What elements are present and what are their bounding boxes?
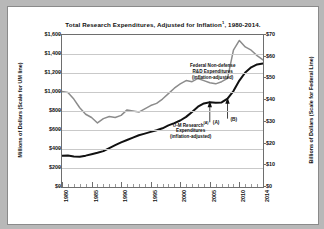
x-tick-minor bbox=[109, 184, 110, 187]
x-tick-minor bbox=[163, 184, 164, 187]
gridline bbox=[62, 92, 263, 93]
x-tick-minor bbox=[257, 184, 258, 187]
x-tick-minor bbox=[157, 184, 158, 187]
x-tick-major bbox=[121, 182, 122, 187]
x-tick-minor bbox=[228, 184, 229, 187]
x-tick-minor bbox=[204, 184, 205, 187]
x-tick-major bbox=[180, 182, 181, 187]
chart-title-years: , 1980-2014. bbox=[224, 21, 260, 28]
x-tick-minor bbox=[198, 184, 199, 187]
x-tick-minor bbox=[216, 184, 217, 187]
x-tick-minor bbox=[103, 184, 104, 187]
x-tick-minor bbox=[186, 184, 187, 187]
y-axis-right-tick-label: $10 bbox=[266, 161, 275, 167]
x-tick-minor bbox=[233, 184, 234, 187]
y-axis-right-tick-label: $60 bbox=[266, 53, 275, 59]
x-axis-tick-label: 1990 bbox=[122, 190, 128, 202]
x-tick-minor bbox=[74, 184, 75, 187]
gridline bbox=[62, 54, 263, 55]
x-tick-major bbox=[151, 182, 152, 187]
x-axis-tick-label: 2000 bbox=[181, 190, 187, 202]
x-tick-minor bbox=[133, 184, 134, 187]
x-tick-minor bbox=[115, 184, 116, 187]
y-axis-right-tick-label: $70 bbox=[266, 31, 275, 37]
x-tick-minor bbox=[68, 184, 69, 187]
x-tick-major bbox=[210, 182, 211, 187]
x-tick-major bbox=[62, 182, 63, 187]
y-axis-right-tick-label: $30 bbox=[266, 118, 275, 124]
y-axis-right-tick-label: $0 bbox=[266, 183, 272, 189]
y-axis-right-tick-label: $40 bbox=[266, 96, 275, 102]
x-axis-tick-label: 1985 bbox=[93, 190, 99, 202]
marker-label-b: (B) bbox=[231, 117, 238, 122]
x-axis-tick-label: 1995 bbox=[152, 190, 158, 202]
chart-title-text: Total Research Expenditures, Adjusted fo… bbox=[65, 21, 222, 28]
x-axis-tick-label: 2005 bbox=[211, 190, 217, 202]
gridline bbox=[62, 168, 263, 169]
y-axis-right-tick-label: $50 bbox=[266, 74, 275, 80]
annotation-um-line3: (inflation-adjusted) bbox=[170, 134, 211, 140]
x-tick-minor bbox=[168, 184, 169, 187]
chart-figure: Total Research Expenditures, Adjusted fo… bbox=[7, 6, 319, 225]
gridline bbox=[62, 149, 263, 150]
x-tick-minor bbox=[139, 184, 140, 187]
x-axis-tick-label: 1980 bbox=[63, 190, 69, 202]
x-tick-minor bbox=[86, 184, 87, 187]
gridline bbox=[62, 130, 263, 131]
annotation-federal-series: Federal Non-defense R&D Expenditures (in… bbox=[190, 63, 235, 81]
x-tick-minor bbox=[145, 184, 146, 187]
x-tick-minor bbox=[222, 184, 223, 187]
x-tick-minor bbox=[97, 184, 98, 187]
x-tick-major bbox=[239, 182, 240, 187]
marker-label-a: (A) bbox=[213, 120, 220, 125]
x-tick-major bbox=[263, 182, 264, 187]
plot-area: (A)(B) Federal Non-defense R&D Expenditu… bbox=[61, 34, 264, 188]
y-axis-right-tick-label: $20 bbox=[266, 140, 275, 146]
x-tick-minor bbox=[174, 184, 175, 187]
y-axis-title-left: Millions of Dollars (Scale for UM line) bbox=[14, 34, 26, 186]
x-axis-tick-label: 2010 bbox=[240, 190, 246, 202]
annotation-federal-line3: (inflation-adjusted) bbox=[190, 75, 235, 81]
chart-title: Total Research Expenditures, Adjusted fo… bbox=[8, 20, 318, 28]
x-tick-minor bbox=[80, 184, 81, 187]
y-axis-title-right: Billions of Dollars (Scale for Federal L… bbox=[305, 34, 317, 186]
gridline bbox=[62, 111, 263, 112]
annotation-federal-line2: R&D Expenditures bbox=[190, 69, 235, 75]
annotation-federal-line1: Federal Non-defense bbox=[190, 63, 235, 69]
annotation-um-footnote-marker: (A) bbox=[203, 121, 208, 125]
x-tick-minor bbox=[251, 184, 252, 187]
x-tick-minor bbox=[127, 184, 128, 187]
x-axis-tick-label: 2014 bbox=[264, 190, 270, 202]
x-tick-minor bbox=[245, 184, 246, 187]
annotation-um-series: U-M Research(A) Expenditures (inflation-… bbox=[170, 121, 211, 140]
annotation-um-line1: U-M Research(A) bbox=[170, 121, 211, 128]
x-tick-minor bbox=[192, 184, 193, 187]
x-tick-major bbox=[92, 182, 93, 187]
